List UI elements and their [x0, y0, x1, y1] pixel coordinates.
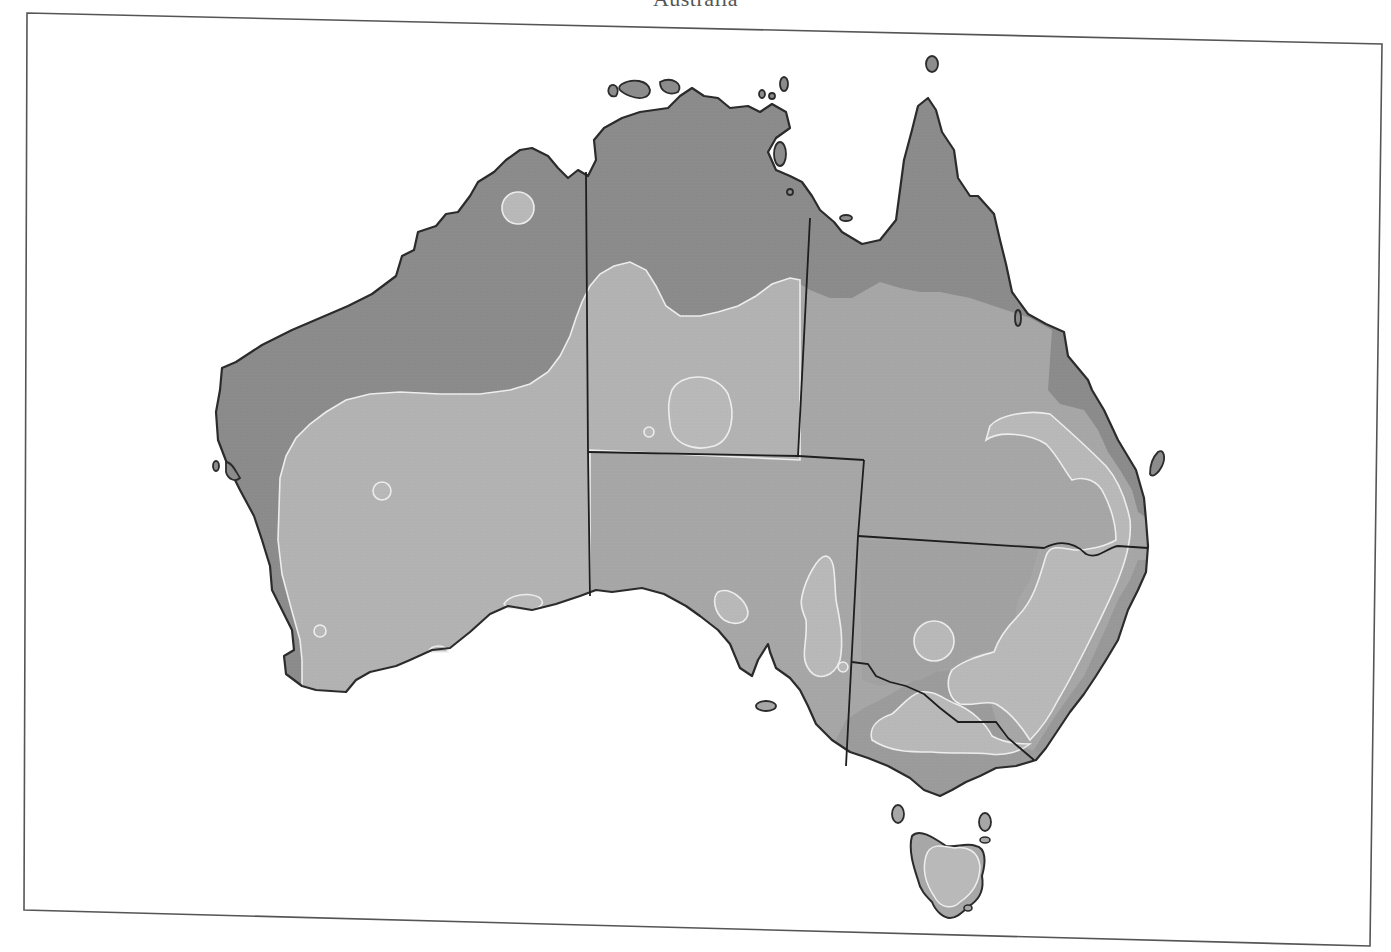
tasmania	[892, 805, 991, 918]
australia-map	[0, 0, 1391, 952]
print-texture	[0, 0, 1391, 952]
